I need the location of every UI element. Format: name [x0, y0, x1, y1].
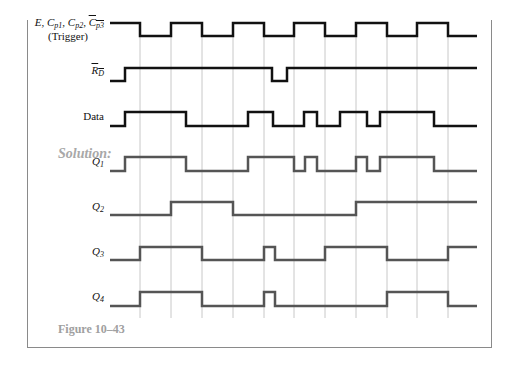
q3-label: Q3 — [80, 245, 104, 259]
trigger-label-sub: (Trigger) — [40, 30, 96, 42]
waveforms — [0, 0, 516, 368]
trigger-label: E, Cp1, Cp2, Cp3 — [34, 16, 104, 30]
waveform-q1 — [110, 157, 477, 171]
data-label: Data — [70, 110, 104, 122]
timing-diagram: E, Cp1, Cp2, Cp3 (Trigger) RD Data Solut… — [0, 0, 516, 368]
q4-label: Q4 — [80, 290, 104, 304]
q2-label: Q2 — [80, 200, 104, 214]
waveform-e-cp1-cp2-cp3-trigger- — [110, 23, 477, 36]
figure-caption: Figure 10–43 — [58, 322, 125, 337]
q1-label: Q1 — [80, 155, 104, 169]
rd-label: RD — [80, 64, 104, 78]
